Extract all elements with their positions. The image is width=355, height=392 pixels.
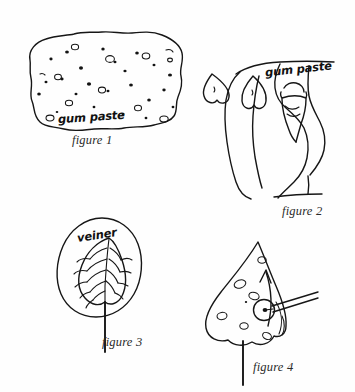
illustration-sheet: gum paste figure 1 [0,0,355,392]
figure-4-caption: figure 4 [253,360,293,375]
thumb-outline [275,64,308,198]
curl-arrow-head [260,270,271,283]
leaf-side-veins [74,248,132,308]
figure-2-caption: figure 2 [282,204,322,219]
loose-petal-icon [203,74,229,103]
gum-paste-cone-icon [281,83,307,142]
petal-edge-curl-line [276,302,281,334]
figure-2-illustration [196,58,346,203]
figure-3-caption: figure 3 [102,335,142,350]
petal-outline [206,242,287,345]
figure-1-caption: figure 1 [72,133,112,148]
index-finger-outline [225,72,251,199]
